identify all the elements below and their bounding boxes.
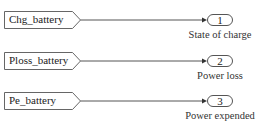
outport-label: State of charge xyxy=(175,29,263,40)
from-tag-label: Pe_battery xyxy=(9,95,56,106)
outport-label: Power expended xyxy=(175,110,263,121)
signal-line-3[interactable] xyxy=(81,99,208,104)
from-tag-label: Chg_battery xyxy=(9,14,63,25)
signal-line-1[interactable] xyxy=(81,18,208,23)
outport-number: 2 xyxy=(207,56,233,67)
outport-label: Power loss xyxy=(175,70,263,81)
outport-number: 1 xyxy=(207,15,233,26)
signal-line-2[interactable] xyxy=(81,59,208,64)
from-tag-label: Ploss_battery xyxy=(9,55,68,66)
outport-number: 3 xyxy=(207,96,233,107)
